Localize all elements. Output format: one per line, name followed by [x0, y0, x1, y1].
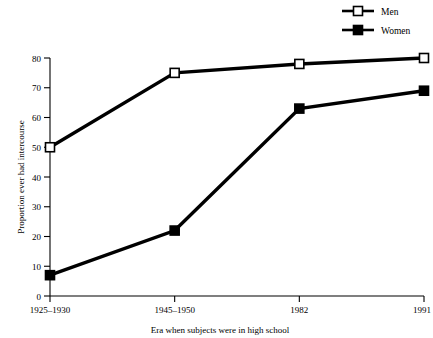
legend-label-women: Women [381, 26, 411, 36]
y-tick-label: 70 [32, 83, 42, 93]
x-axis-category-labels: 1925–1930 1945–1950 1982 1991 [30, 305, 431, 315]
data-point-marker [295, 104, 304, 113]
y-tick-label: 60 [32, 113, 42, 123]
y-tick-label: 80 [32, 54, 42, 64]
series-men [46, 54, 429, 152]
y-axis-tick-labels: 0 10 20 30 40 50 60 70 80 [32, 54, 42, 302]
legend-item-women: Women [342, 26, 411, 36]
data-point-marker [420, 54, 429, 63]
data-point-marker [170, 226, 179, 235]
data-point-marker [46, 143, 55, 152]
y-axis-ticks [44, 58, 50, 296]
series-line-men [50, 58, 424, 147]
y-tick-label: 0 [37, 292, 42, 302]
y-tick-label: 30 [32, 202, 42, 212]
legend-label-men: Men [381, 7, 399, 17]
y-tick-label: 50 [32, 143, 42, 153]
open-square-icon [354, 7, 363, 16]
y-axis-title: Proportion ever had intercourse [16, 120, 26, 234]
y-tick-label: 10 [32, 262, 42, 272]
data-point-marker [170, 68, 179, 77]
data-point-marker [295, 59, 304, 68]
x-category-label: 1945–1950 [154, 305, 195, 315]
x-axis-title: Era when subjects were in high school [151, 325, 290, 335]
chart-legend: Men Women [342, 7, 411, 36]
legend-item-men: Men [342, 7, 399, 17]
data-point-marker [46, 271, 55, 280]
line-chart-canvas: 0 10 20 30 40 50 60 70 80 1925–1930 1945… [0, 0, 433, 338]
y-tick-label: 20 [32, 232, 42, 242]
x-category-label: 1982 [290, 305, 308, 315]
y-tick-label: 40 [32, 173, 42, 183]
x-axis-ticks [50, 296, 424, 302]
chart-figure: 0 10 20 30 40 50 60 70 80 1925–1930 1945… [0, 0, 433, 338]
x-category-label: 1925–1930 [30, 305, 71, 315]
data-point-marker [420, 86, 429, 95]
filled-square-icon [354, 26, 363, 35]
x-category-label: 1991 [413, 305, 431, 315]
series-line-women [50, 91, 424, 275]
